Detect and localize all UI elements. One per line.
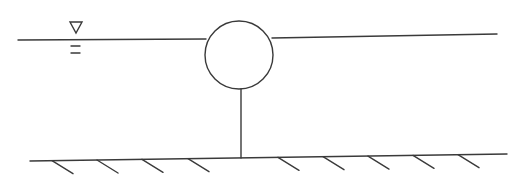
buoy-circle — [205, 21, 273, 89]
ground-hatch-0 — [52, 161, 73, 174]
ground-hatch-4 — [278, 157, 299, 170]
ground-hatch-5 — [323, 157, 344, 170]
ground-hatch-6 — [368, 156, 389, 169]
ground-line — [30, 154, 507, 161]
ground-hatch-8 — [458, 155, 479, 168]
ground-hatch-1 — [97, 160, 118, 173]
ground-hatch-2 — [142, 159, 163, 172]
free-surface — [18, 34, 497, 40]
ground-hatch-3 — [188, 159, 209, 172]
water-level-triangle — [70, 22, 82, 33]
water-surface-right-line — [272, 34, 497, 38]
water-surface-left-line — [18, 39, 206, 40]
ground-bed — [30, 154, 507, 174]
water-level-dashes — [71, 46, 80, 53]
buoy-mooring-diagram — [0, 0, 515, 187]
diagram-canvas — [0, 0, 515, 187]
water-level-triangle-icon — [70, 22, 82, 53]
ground-hatch-7 — [413, 155, 434, 168]
